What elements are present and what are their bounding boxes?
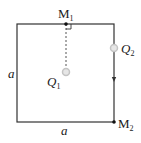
label-side-bottom: a (61, 123, 68, 138)
label-m1: M1 (58, 6, 74, 23)
direction-arrow-down-icon (112, 77, 116, 82)
label-q2: Q2 (121, 41, 134, 58)
label-side-left: a (8, 66, 15, 81)
point-m1 (64, 22, 68, 26)
point-m2 (112, 120, 116, 124)
label-m2: M2 (118, 116, 134, 133)
charge-q2 (111, 45, 118, 52)
square-loop-diagram: M1 M2 Q1 Q2 a a (0, 0, 141, 143)
label-q1: Q1 (47, 74, 60, 91)
charge-q1 (63, 69, 70, 76)
